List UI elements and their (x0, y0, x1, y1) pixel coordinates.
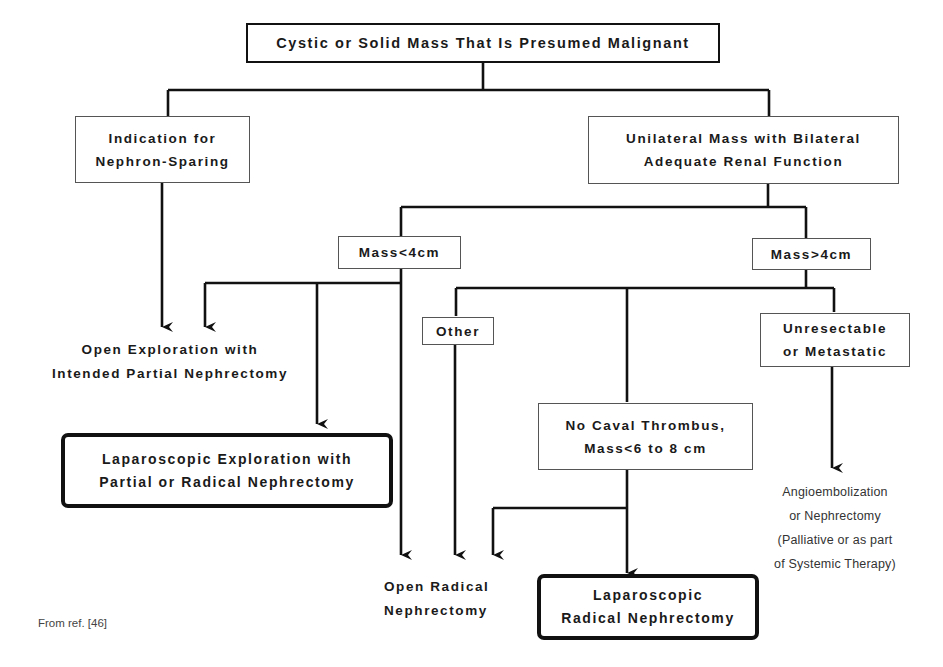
source-caption: From ref. [46] (38, 617, 107, 629)
open-exploration-outcome: Open Exploration with Intended Partial N… (20, 338, 320, 386)
unilateral-line-1: Unilateral Mass with Bilateral (626, 127, 861, 150)
lap-radical-line-1: Laparoscopic (593, 584, 703, 607)
lap-radical-line-2: Radical Nephrectomy (561, 607, 735, 630)
unresectable-node: Unresectable or Metastatic (760, 313, 910, 367)
no-caval-line-1: No Caval Thrombus, (565, 414, 725, 437)
nephron-sparing-node: Indication for Nephron-Sparing (75, 116, 250, 183)
other-label: Other (436, 320, 480, 343)
no-caval-line-2: Mass<6 to 8 cm (584, 437, 707, 460)
root-node-label: Cystic or Solid Mass That Is Presumed Ma… (276, 32, 690, 55)
nephron-sparing-line-2: Nephron-Sparing (95, 150, 229, 173)
angio-line-3: (Palliative or as part (750, 528, 920, 552)
mass-less-4cm-label: Mass<4cm (359, 241, 440, 264)
open-exploration-line-2: Intended Partial Nephrectomy (20, 362, 320, 386)
mass-greater-4cm-node: Mass>4cm (752, 238, 871, 270)
open-exploration-line-1: Open Exploration with (20, 338, 320, 362)
angioembolization-outcome: Angioembolization or Nephrectomy (Pallia… (750, 480, 920, 576)
unresectable-line-2: or Metastatic (783, 340, 887, 363)
unilateral-line-2: Adequate Renal Function (644, 150, 844, 173)
lap-exploration-line-2: Partial or Radical Nephrectomy (99, 471, 355, 494)
unresectable-line-1: Unresectable (783, 317, 887, 340)
angio-line-2: or Nephrectomy (750, 504, 920, 528)
mass-greater-4cm-label: Mass>4cm (771, 243, 852, 266)
nephron-sparing-line-1: Indication for (109, 127, 217, 150)
other-node: Other (422, 317, 494, 345)
mass-less-4cm-node: Mass<4cm (338, 236, 461, 269)
lap-exploration-line-1: Laparoscopic Exploration with (102, 448, 352, 471)
no-caval-thrombus-node: No Caval Thrombus, Mass<6 to 8 cm (538, 403, 753, 470)
angio-line-4: of Systemic Therapy) (750, 552, 920, 576)
root-node: Cystic or Solid Mass That Is Presumed Ma… (246, 23, 720, 63)
laparoscopic-exploration-outcome: Laparoscopic Exploration with Partial or… (61, 433, 393, 508)
laparoscopic-radical-nephrectomy-outcome: Laparoscopic Radical Nephrectomy (537, 574, 759, 640)
open-radical-nephrectomy-outcome: Open Radical Nephrectomy (384, 575, 494, 623)
angio-line-1: Angioembolization (750, 480, 920, 504)
unilateral-mass-node: Unilateral Mass with Bilateral Adequate … (588, 116, 899, 184)
open-radical-line-2: Nephrectomy (384, 599, 494, 623)
open-radical-line-1: Open Radical (384, 575, 494, 599)
